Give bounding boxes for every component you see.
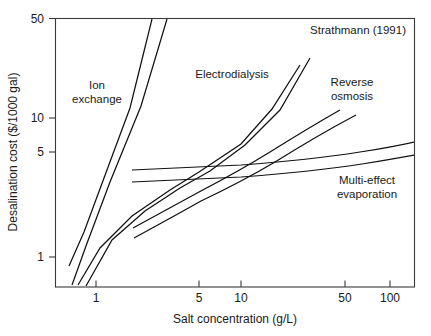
curve-multi-effect-upper bbox=[132, 142, 414, 170]
y-tick-label-10: 10 bbox=[31, 111, 45, 125]
label-multi-effect-line2: evaporation bbox=[337, 188, 397, 200]
y-tick-label-50: 50 bbox=[31, 12, 45, 26]
curve-ion-exchange-upper bbox=[72, 19, 167, 285]
x-axis-title: Salt concentration (g/L) bbox=[173, 312, 297, 326]
label-reverse-osmosis-line2: osmosis bbox=[331, 90, 373, 102]
x-tick-label-10: 10 bbox=[234, 291, 248, 305]
x-tick-label-100: 100 bbox=[380, 291, 400, 305]
label-ion-exchange-line1: Ion bbox=[89, 79, 105, 91]
label-reverse-osmosis-line1: Reverse bbox=[331, 76, 374, 88]
x-tick-label-5: 5 bbox=[196, 291, 203, 305]
label-electrodialysis: Electrodialysis bbox=[195, 68, 269, 80]
y-axis-title: Desalination cost ($/1000 gal) bbox=[6, 73, 20, 232]
x-tick-label-50: 50 bbox=[338, 291, 352, 305]
label-multi-effect-line1: Multi-effect bbox=[339, 174, 396, 186]
curve-ion-exchange-lower bbox=[69, 19, 152, 266]
y-tick-label-5: 5 bbox=[37, 145, 44, 159]
desalination-cost-chart: 50 10 5 1 1 5 10 50 100 Salt concentrati… bbox=[0, 0, 431, 336]
y-tick-label-1: 1 bbox=[37, 250, 44, 264]
curve-group bbox=[69, 19, 414, 286]
x-tick-label-1: 1 bbox=[93, 291, 100, 305]
y-axis-ticks bbox=[49, 19, 56, 258]
label-ion-exchange-line2: exchange bbox=[72, 93, 122, 105]
x-axis-ticks bbox=[96, 281, 390, 288]
chart-figure: 50 10 5 1 1 5 10 50 100 Salt concentrati… bbox=[0, 0, 431, 336]
source-citation: Strathmann (1991) bbox=[310, 24, 406, 36]
